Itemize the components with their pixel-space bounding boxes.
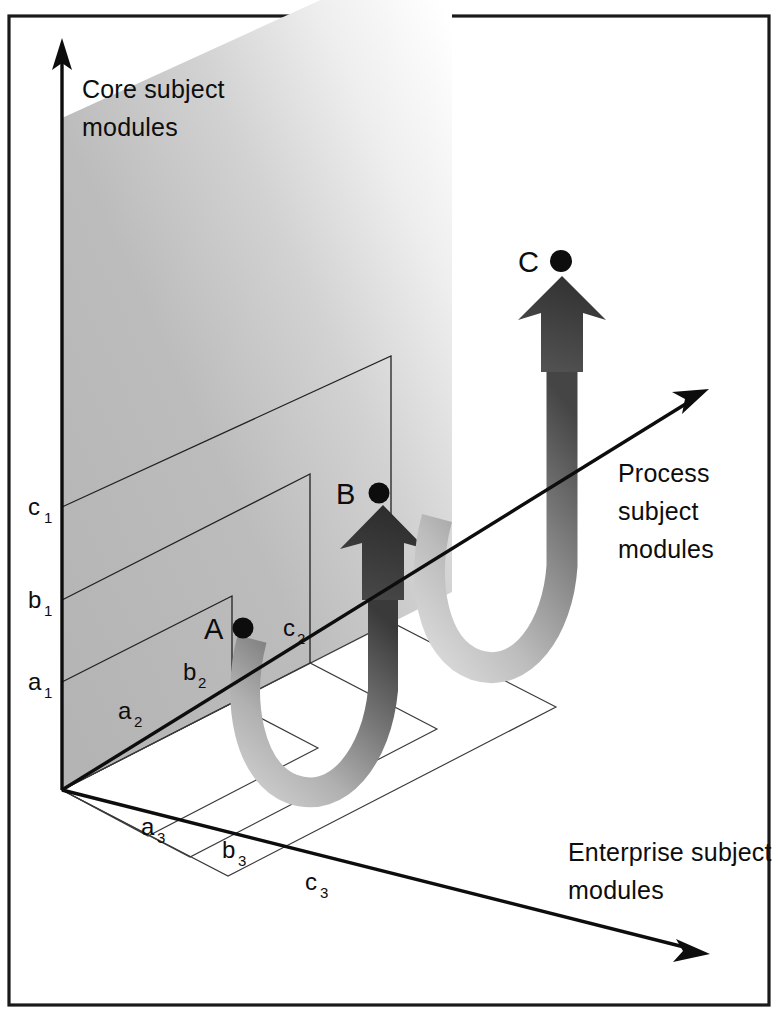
- axis-enterprise-title-line1: Enterprise subject: [568, 838, 772, 866]
- figure-root: Core subject modules Process subject mod…: [0, 0, 778, 1033]
- diagram-canvas: Core subject modules Process subject mod…: [0, 0, 778, 1033]
- tick-label-a3-base: a: [141, 813, 155, 840]
- tick-label-c2-base: c: [283, 614, 295, 641]
- tick-label-a3-sub: 3: [157, 829, 165, 846]
- tick-label-b1-sub: 1: [44, 602, 52, 619]
- tick-label-a2-base: a: [118, 697, 132, 724]
- axis-enterprise-title-line2: modules: [568, 876, 664, 904]
- tick-label-c1-sub: 1: [44, 509, 52, 526]
- point-label-a: A: [204, 613, 224, 645]
- tick-label-b3-sub: 3: [238, 852, 246, 869]
- tick-label-b1-base: b: [28, 586, 41, 613]
- point-dot-a-icon: [233, 618, 254, 639]
- axis-core-title-line1: Core subject: [82, 75, 225, 103]
- tick-label-c1-base: c: [28, 493, 40, 520]
- tick-label-c3-sub: 3: [320, 884, 328, 901]
- tick-label-b2-base: b: [183, 658, 196, 685]
- axis-process-title-line1: Process: [618, 459, 710, 487]
- point-label-b: B: [336, 478, 355, 510]
- tick-label-c3-base: c: [305, 868, 317, 895]
- tick-label-a2-sub: 2: [134, 713, 142, 730]
- tick-label-b2-sub: 2: [198, 674, 206, 691]
- tick-label-b3-base: b: [222, 836, 235, 863]
- tick-label-a1-base: a: [28, 668, 42, 695]
- axis-process-title-line2: subject: [618, 497, 699, 525]
- tick-label-c2-sub: 2: [297, 630, 305, 647]
- tick-label-a1-sub: 1: [44, 684, 52, 701]
- axis-process-title-line3: modules: [618, 535, 714, 563]
- point-dot-b-icon: [369, 483, 390, 504]
- point-label-c: C: [518, 246, 539, 278]
- axis-core-title-line2: modules: [82, 113, 178, 141]
- point-dot-c-icon: [550, 250, 572, 272]
